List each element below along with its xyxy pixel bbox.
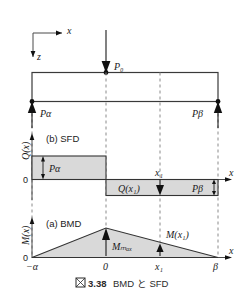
bmd-x1-label: x₁ <box>154 261 163 272</box>
bmd-mx1-label: M(x₁) <box>165 229 190 241</box>
sfd-panel-label: (b) SFD <box>46 133 79 144</box>
sfd-vertical-axis-arrow <box>30 133 35 140</box>
bmd-mmax-label: Mₘₐₓ <box>111 241 132 252</box>
coord-x-label: x <box>66 25 72 36</box>
bmd-vertical-axis-label: M(x) <box>20 225 32 246</box>
caption-number: 3.38 <box>88 278 107 289</box>
sfd-pbeta-label: Pβ <box>191 183 203 194</box>
bmd-panel: M(x) (a) BMD 0 x Mₘₐₓ M(x₁) −α 0 x₁ β <box>20 217 234 272</box>
bmd-origin-label: 0 <box>103 261 108 272</box>
bmd-panel-label: (a) BMD <box>46 218 82 229</box>
figure-caption: 3.38 BMD と SFD <box>76 278 169 289</box>
bmd-vertical-axis-arrow <box>30 217 35 224</box>
load-label: P₀ <box>113 61 124 72</box>
caption-marker-glyph <box>76 278 85 287</box>
sfd-x1-label: x₁ <box>154 167 163 178</box>
caption-label: BMD と SFD <box>113 278 169 289</box>
beam-body <box>32 73 218 102</box>
sfd-qx1-label: Q(x₁) <box>118 183 140 195</box>
bmd-right-end-label: β <box>212 261 218 272</box>
z-axis-arrowhead <box>31 51 36 57</box>
reaction-right-label: Pβ <box>191 108 203 119</box>
sfd-panel: Q(x) (b) SFD 0 x Pα Q(x₁) x₁ <box>20 133 234 200</box>
coordinate-frame: x z <box>31 25 72 62</box>
bmd-horizontal-axis-label: x <box>228 245 234 256</box>
x-axis-arrowhead <box>56 31 62 36</box>
sfd-zero-label: 0 <box>23 175 28 185</box>
sfd-palpha-label: Pα <box>48 163 61 174</box>
coord-z-label: z <box>36 51 41 62</box>
bmd-left-end-label: −α <box>26 261 39 272</box>
sfd-vertical-axis-label: Q(x) <box>20 141 32 160</box>
sfd-horizontal-axis-label: x <box>228 167 234 178</box>
bmd-sfd-figure: x z P₀ Pα <box>0 0 242 297</box>
reaction-right-head <box>214 102 222 114</box>
reaction-left-head <box>28 102 36 114</box>
reaction-left-label: Pα <box>39 108 52 119</box>
figure-container: x z P₀ Pα <box>0 0 242 297</box>
